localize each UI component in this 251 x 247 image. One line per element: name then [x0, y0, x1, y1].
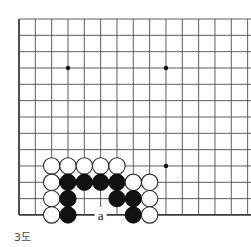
- go-diagram-root: a 3도: [0, 0, 251, 247]
- white-stone: [60, 158, 76, 174]
- black-stone: [125, 190, 141, 206]
- black-stone: [109, 174, 125, 190]
- star-point: [164, 164, 168, 168]
- star-point: [164, 66, 168, 70]
- marker-label-a: a: [98, 208, 104, 223]
- black-stone: [109, 190, 125, 206]
- black-stone: [60, 174, 76, 190]
- white-stone: [92, 158, 108, 174]
- white-stone: [141, 190, 157, 206]
- black-stone: [60, 190, 76, 206]
- diagram-caption: 3도: [14, 228, 31, 244]
- white-stone: [141, 207, 157, 223]
- black-stone: [76, 174, 92, 190]
- white-stone: [109, 158, 125, 174]
- white-stone: [43, 190, 59, 206]
- white-stone: [125, 174, 141, 190]
- black-stone: [60, 207, 76, 223]
- go-board: a: [0, 0, 251, 230]
- black-stone: [92, 174, 108, 190]
- white-stone: [43, 174, 59, 190]
- white-stone: [43, 207, 59, 223]
- go-board-svg: a: [0, 0, 251, 230]
- markers-layer: a: [95, 207, 107, 223]
- white-stone: [141, 174, 157, 190]
- star-point: [66, 66, 70, 70]
- white-stone: [76, 158, 92, 174]
- white-stone: [43, 158, 59, 174]
- black-stone: [125, 207, 141, 223]
